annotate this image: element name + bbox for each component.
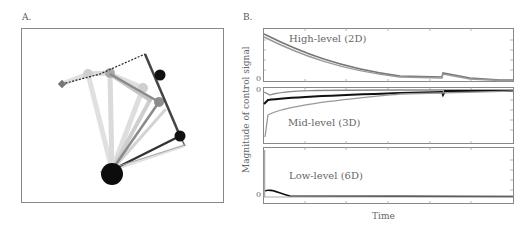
mid-level-curve-2	[264, 91, 513, 104]
high-level-curve-1	[264, 34, 513, 80]
low-level-curve-1	[265, 190, 513, 196]
control-signal-curves	[0, 0, 528, 230]
